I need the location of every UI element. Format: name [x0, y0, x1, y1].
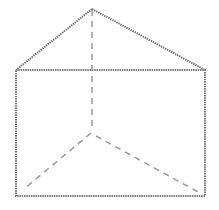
background	[0, 0, 219, 210]
triangular-prism-diagram	[0, 0, 219, 210]
